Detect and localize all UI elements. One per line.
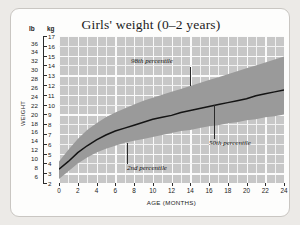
annotation-layer: 98th percentile50th percentile2nd percen… bbox=[11, 9, 291, 218]
annotation-leader-line bbox=[190, 67, 191, 86]
annotation-label: 50th percentile bbox=[209, 139, 251, 147]
annotation-leader-line bbox=[214, 105, 215, 139]
annotation-label: 2nd percentile bbox=[127, 164, 167, 172]
annotation-label: 98th percentile bbox=[131, 57, 173, 65]
annotation-leader-line bbox=[127, 143, 128, 164]
chart-card: Girls' weight (0–2 years) lb kg WEIGHT 6… bbox=[10, 8, 290, 217]
